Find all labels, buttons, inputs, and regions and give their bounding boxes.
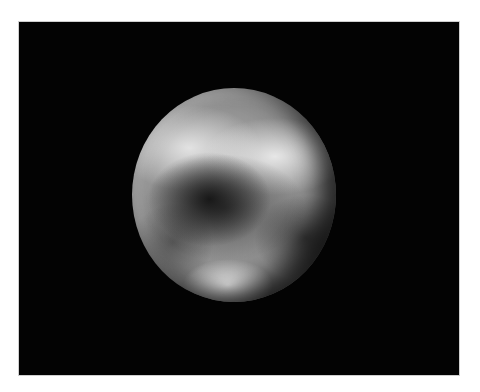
planet-sphere xyxy=(132,88,336,302)
